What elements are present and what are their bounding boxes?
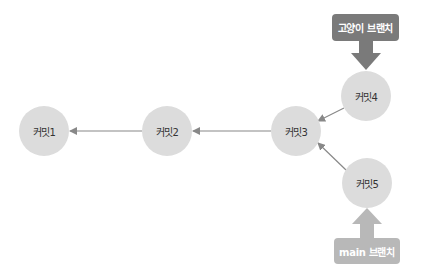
main-branch-label: main 브랜치: [334, 238, 400, 264]
commit-node-2: 커밋2: [142, 106, 192, 156]
edge-commit4-to-commit3: [318, 108, 344, 121]
commit-label: 커밋1: [33, 124, 56, 139]
main-branch-pointer-arrow: [352, 208, 382, 240]
commit-label: 커밋3: [285, 124, 308, 139]
cat-branch-pointer-arrow: [351, 40, 381, 70]
commit-label: 커밋4: [355, 89, 378, 104]
commit-node-5: 커밋5: [342, 158, 392, 208]
commit-label: 커밋5: [356, 176, 379, 191]
edge-commit5-to-commit3: [318, 143, 346, 170]
commit-node-3: 커밋3: [271, 106, 321, 156]
cat-branch-label: 고양이 브랜치: [332, 14, 399, 41]
commit-node-1: 커밋1: [19, 106, 69, 156]
commit-label: 커밋2: [156, 124, 179, 139]
commit-node-4: 커밋4: [341, 71, 391, 121]
